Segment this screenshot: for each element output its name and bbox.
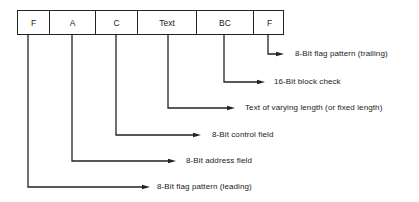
desc-flag-leading: 8-Bit flag pattern (leading) — [157, 182, 252, 191]
desc-address: 8-Bit address field — [186, 156, 252, 165]
arrowhead-icon — [276, 52, 284, 56]
desc-text: Text of varying length (or fixed length) — [245, 103, 382, 112]
arrowhead-icon — [193, 133, 201, 137]
connector-line — [116, 35, 195, 135]
arrowhead-icon — [168, 159, 176, 163]
arrowhead-icon — [227, 106, 235, 110]
connector-line — [268, 35, 278, 54]
desc-control: 8-Bit control field — [212, 130, 273, 139]
connector-lines — [0, 0, 419, 202]
connector-line — [28, 35, 144, 187]
desc-flag-trailing: 8-Bit flag pattern (trailing) — [295, 49, 388, 58]
connector-line — [224, 35, 259, 82]
connector-line — [72, 35, 170, 161]
arrowhead-icon — [142, 185, 150, 189]
connector-line — [168, 35, 229, 108]
desc-block-check: 16-Bit block check — [274, 77, 341, 86]
arrowhead-icon — [257, 80, 265, 84]
